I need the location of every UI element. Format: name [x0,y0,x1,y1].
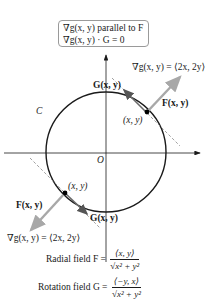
point-label-bottom: (x, y) [68,182,88,192]
rotation-field-numerator: ⟨−y, x⟩ [112,276,141,288]
curve-label: C [36,107,42,117]
f-label-top: F(x, y) [162,99,188,109]
radial-field-denominator: √x² + y² [110,260,139,271]
radial-field-numerator: ⟨x, y⟩ [110,248,139,260]
rotation-field-label: Rotation field G = [38,282,107,292]
gradient-label-bottom: ∇g(x, y) = ⟨2x, 2y⟩ [7,234,80,244]
point-top [145,110,150,115]
condition-box: ∇g(x, y) parallel to F ∇g(x, y) · G = 0 [58,20,149,47]
rotation-field-fraction: ⟨−y, x⟩ √x² + y² [112,276,141,299]
g-arrow-top [124,90,146,112]
g-label-top: G(x, y) [93,81,121,91]
condition-line-2: ∇g(x, y) · G = 0 [63,34,148,46]
gradient-arrow-bottom [31,193,65,230]
point-label-top: (x, y) [123,116,143,126]
radial-field-formula: Radial field F = ⟨x, y⟩ √x² + y² [46,248,139,271]
gradient-label-top: ∇g(x, y) = ⟨2x, 2y⟩ [132,63,205,73]
radial-field-label: Radial field F = [46,254,106,264]
rotation-field-denominator: √x² + y² [112,288,141,299]
radial-field-fraction: ⟨x, y⟩ √x² + y² [110,248,139,271]
origin-label: O [97,156,104,166]
condition-line-1: ∇g(x, y) parallel to F [63,22,148,34]
g-arrow-bottom [65,193,87,214]
rotation-field-formula: Rotation field G = ⟨−y, x⟩ √x² + y² [38,276,141,299]
point-bottom [63,191,68,196]
f-label-bottom: F(x, y) [16,201,42,211]
g-label-bottom: G(x, y) [90,214,118,224]
